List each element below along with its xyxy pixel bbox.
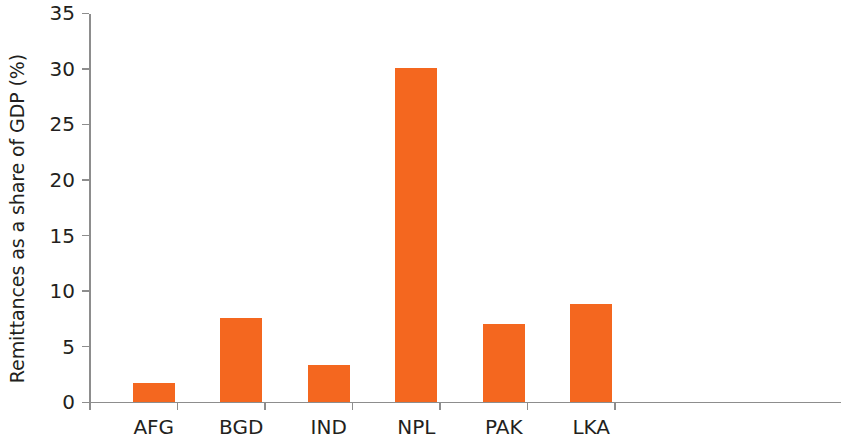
bar-lka: [570, 304, 612, 402]
y-tick-label: 5: [62, 335, 75, 359]
x-tick: [89, 403, 91, 410]
y-tick-label: 0: [62, 390, 75, 414]
x-label-pak: PAK: [485, 415, 523, 437]
y-tick-label: 30: [50, 57, 75, 81]
y-tick-label: 15: [50, 224, 75, 248]
y-tick-label: 10: [50, 279, 75, 303]
y-tick: 30: [82, 68, 89, 70]
bar-afg: [133, 383, 175, 402]
x-label-ind: IND: [311, 415, 347, 437]
x-label-npl: NPL: [397, 415, 435, 437]
x-label-afg: AFG: [133, 415, 174, 437]
y-tick-label: 25: [50, 112, 75, 136]
x-axis-line: [89, 402, 841, 404]
y-axis-line: [89, 14, 91, 403]
y-tick: 5: [82, 346, 89, 348]
y-tick-label: 20: [50, 168, 75, 192]
y-tick: 0: [82, 402, 89, 404]
y-axis-title: Remittances as a share of GDP (%): [0, 0, 34, 437]
plot-area: 05101520253035 AFGBGDINDNPLPAKLKA: [89, 14, 841, 403]
bar-bgd: [220, 318, 262, 401]
y-tick: 20: [82, 179, 89, 181]
x-label-lka: LKA: [572, 415, 610, 437]
x-tick: [352, 403, 354, 410]
x-tick: [527, 403, 529, 410]
bar-chart: Remittances as a share of GDP (%) 051015…: [0, 0, 847, 437]
y-tick: 35: [82, 13, 89, 15]
y-tick-label: 35: [50, 1, 75, 25]
y-tick: 15: [82, 235, 89, 237]
x-label-bgd: BGD: [219, 415, 263, 437]
bar-pak: [483, 324, 525, 402]
x-tick: [177, 403, 179, 410]
y-tick: 25: [82, 124, 89, 126]
bar-ind: [308, 365, 350, 402]
x-tick: [614, 403, 616, 410]
y-tick: 10: [82, 290, 89, 292]
bar-npl: [395, 68, 437, 401]
x-tick: [264, 403, 266, 410]
x-tick: [439, 403, 441, 410]
